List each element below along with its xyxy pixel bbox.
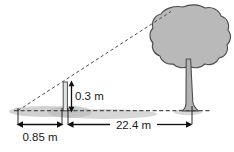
mirror-post bbox=[63, 82, 67, 111]
dimension-mirror-height: 0.3 m bbox=[69, 81, 104, 113]
tree-height-diagram: 0.3 m 0.85 m 22.4 m bbox=[0, 0, 234, 152]
ground-shadow bbox=[9, 106, 202, 119]
mirror-height-label: 0.3 m bbox=[75, 90, 104, 102]
observer-to-mirror-label: 0.85 m bbox=[22, 131, 57, 143]
tree-canopy-icon bbox=[150, 5, 231, 68]
dimension-observer-to-mirror: 0.85 m bbox=[17, 121, 64, 143]
tree bbox=[150, 5, 231, 111]
mirror-to-tree-label: 22.4 m bbox=[116, 119, 151, 131]
dimension-mirror-to-tree: 22.4 m bbox=[67, 119, 193, 131]
